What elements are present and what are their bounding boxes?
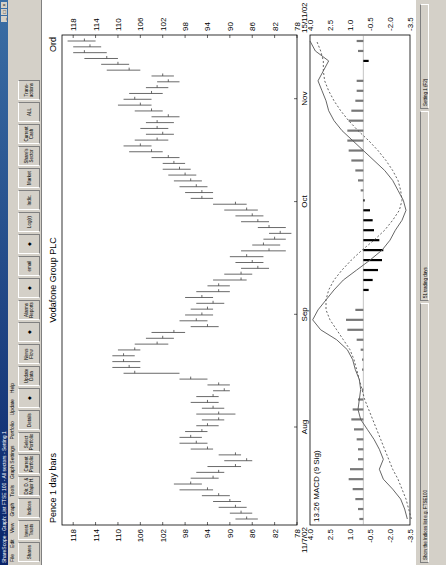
toolbar-button-current-cash[interactable]: Current Cash (18, 124, 40, 144)
cog-icon: ◆ (27, 286, 32, 290)
help-pointer-icon: ◆ (27, 242, 32, 246)
email-icon: email (27, 261, 32, 272)
price-axis-label-right: 114 (92, 18, 101, 31)
sharescope-window: ShareScope - Graph: List FTSE 100 - All … (0, 0, 446, 565)
toolbar-button-invest-trusts[interactable]: Invest. Trusts (18, 520, 40, 540)
all-icon: ALL (27, 108, 32, 116)
update-icon: Update Data (24, 367, 34, 385)
toolbar-button-update-data[interactable]: Update Data (18, 366, 40, 386)
x-month-label: Nov (300, 92, 309, 106)
pin-icon: ◆ (27, 330, 32, 334)
menu-portfolio[interactable]: Portfolio (8, 421, 16, 439)
minimize-button[interactable]: _ (1, 16, 7, 22)
menu-edit[interactable]: Edit (8, 539, 16, 548)
macd-axis-label-left: -2.0 (386, 528, 395, 542)
price-axis-label-right: 102 (159, 17, 168, 31)
graph-icon: ◆ (27, 396, 32, 400)
macd-axis-label-left: 4.0 (306, 528, 315, 540)
toolbar-button-email[interactable]: email (18, 256, 40, 276)
toolbar-button-share-s-sector[interactable]: Share's Sector (18, 146, 40, 166)
price-axis-label-right: 98 (181, 22, 190, 31)
status-hint: Show the Indices list e.g. FTSE100 (420, 303, 429, 563)
sector-icon: Share's Sector (24, 147, 34, 165)
chart-area: Pence 1 day barsVodafone Group PLCOrd118… (42, 0, 416, 565)
directors-icon: Dir. D. & Major H. (24, 477, 34, 495)
toolbar-button-dir-d-major-h[interactable]: Dir. D. & Major H. (18, 476, 40, 496)
x-month-label: Oct (300, 195, 309, 208)
toolbar-button-cog[interactable]: ◆ (18, 278, 40, 298)
toolbar-button-market[interactable]: Market (18, 168, 40, 188)
toolbar-button-select-portfolio[interactable]: Select Portfolio (18, 432, 40, 452)
maximize-button[interactable]: □ (1, 9, 7, 15)
cash-icon: Current Cash (24, 125, 34, 143)
price-axis-label-right: 90 (226, 22, 235, 31)
price-axis-label-left: 118 (69, 528, 78, 541)
toolbar: SharesInvest. TrustsIndicesDir. D. & Maj… (16, 0, 42, 565)
details-icon: Details (27, 413, 32, 427)
menu-update[interactable]: Update (8, 399, 16, 415)
price-axis-label-right: 94 (203, 22, 212, 31)
toolbar-button-indic[interactable]: Indic. (18, 190, 40, 210)
x-month-label: Aug (300, 420, 309, 434)
macd-axis-label-right: 1.0 (346, 19, 355, 31)
toolbar-button-news-flow[interactable]: News Flow (18, 344, 40, 364)
price-axis-label-left: 98 (181, 528, 190, 537)
price-axis-label-right: 110 (114, 18, 123, 31)
close-button[interactable]: × (1, 2, 7, 8)
toolbar-button-trans-actions[interactable]: Trans-actions (18, 80, 40, 100)
macd-line (310, 41, 407, 519)
portfolio-icon: Current Portfolio (24, 455, 34, 473)
menu-view[interactable]: View (8, 523, 16, 534)
trusts-icon: Invest. Trusts (24, 521, 34, 539)
toolbar-button-all[interactable]: ALL (18, 102, 40, 122)
toolbar-button-graph[interactable]: ◆ (18, 388, 40, 408)
indices-icon: Indices (27, 501, 32, 515)
macd-axis-label-left: 2.5 (326, 528, 335, 540)
price-axis-label-left: 82 (271, 528, 280, 537)
title-bar: ShareScope - Graph: List FTSE 100 - All … (0, 0, 8, 565)
transactions-icon: Trans-actions (24, 81, 34, 99)
macd-panel-frame (310, 35, 410, 525)
price-axis-label-left: 90 (226, 528, 235, 537)
price-axis-label-left: 94 (203, 528, 212, 537)
toolbar-button-details[interactable]: Details (18, 410, 40, 430)
status-bar: Show the Indices list e.g. FTSE100 51 tr… (416, 0, 446, 565)
window-controls: _ □ × (1, 2, 7, 22)
menu-help[interactable]: Help (8, 383, 16, 393)
toolbar-button-log-r[interactable]: Log(r) (18, 212, 40, 232)
macd-axis-label-left: 1.0 (346, 528, 355, 540)
price-axis-label-left: 86 (248, 528, 257, 537)
price-axis-label-left: 102 (159, 528, 168, 542)
macd-axis-label-left: -0.5 (366, 528, 375, 542)
price-axis-label-right: 106 (136, 17, 145, 31)
shares-icon: Shares (27, 545, 32, 559)
log-icon: Log(r) (27, 216, 32, 228)
menu-graph[interactable]: Graph (8, 503, 16, 517)
menu-tools[interactable]: Tools (8, 485, 16, 497)
toolbar-button-indices[interactable]: Indices (18, 498, 40, 518)
chart-title: Vodafone Group PLC (48, 237, 58, 323)
status-trading-days: 51 trading days (420, 111, 429, 301)
menu-graph-settings[interactable]: Graph Settings (8, 446, 16, 479)
alarms-icon: Alarms Reports (24, 301, 34, 319)
macd-axis-label-right: 4.0 (306, 19, 315, 31)
select-portfolio-icon: Select Portfolio (24, 433, 34, 451)
price-subtitle-right: Ord (48, 37, 58, 52)
price-axis-label-right: 82 (271, 22, 280, 31)
toolbar-button-alarms-reports[interactable]: Alarms Reports (18, 300, 40, 320)
news-icon: News Flow (24, 345, 34, 363)
status-setting: Setting 1 (F2) (420, 4, 429, 109)
chart-svg: Pence 1 day barsVodafone Group PLCOrd118… (42, 0, 416, 565)
menu-file[interactable]: File (8, 554, 16, 562)
toolbar-button-current-portfolio[interactable]: Current Portfolio (18, 454, 40, 474)
price-axis-label-left: 106 (136, 528, 145, 542)
toolbar-button-help-pointer[interactable]: ◆ (18, 234, 40, 254)
macd-axis-label-right: 2.5 (326, 19, 335, 31)
toolbar-button-pin[interactable]: ◆ (18, 322, 40, 342)
price-axis-label-left: 114 (92, 528, 101, 541)
market-icon: Market (27, 171, 32, 185)
price-subtitle-left: Pence 1 day bars (48, 452, 58, 523)
x-month-label: Sep (300, 307, 309, 322)
toolbar-button-shares[interactable]: Shares (18, 542, 40, 562)
window-title: ShareScope - Graph: List FTSE 100 - All … (1, 431, 7, 563)
